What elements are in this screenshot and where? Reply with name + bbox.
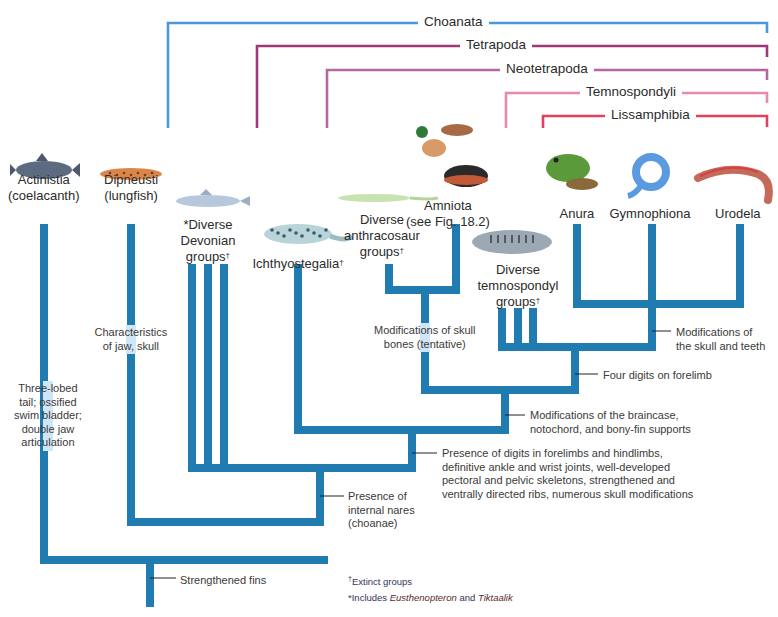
character-line: Modifications of the braincase, bbox=[530, 409, 691, 423]
taxon-label-line: Ichthyostegalia† bbox=[253, 256, 344, 272]
taxon-label-line: Dipneusti bbox=[104, 172, 158, 188]
taxon-label-line: Amniota bbox=[406, 198, 490, 214]
character-line: bones (tentative) bbox=[374, 338, 476, 352]
character-line: of jaw, skull bbox=[95, 340, 168, 354]
taxon-label-line: (lungfish) bbox=[104, 188, 158, 204]
taxon-label-line: *Diverse bbox=[181, 217, 236, 233]
character-line: Strengthened fins bbox=[180, 574, 266, 588]
extinct-dagger: † bbox=[400, 246, 404, 255]
character-line: Characteristics bbox=[95, 326, 168, 340]
taxon-label-amniota: Amniota(see Fig. 18.2) bbox=[406, 198, 490, 230]
taxon-label-line: Diverse bbox=[478, 262, 559, 278]
taxon-label-line: Anura bbox=[560, 206, 595, 222]
devonian-fish-icon bbox=[176, 189, 250, 207]
character-line: swim bladder; bbox=[14, 409, 82, 423]
character-line: tail; ossified bbox=[14, 396, 82, 410]
taxon-label-actinistia: Actinistia(coelacanth) bbox=[8, 172, 80, 204]
taxon-label-line: (see Fig. 18.2) bbox=[406, 214, 490, 230]
footnote-extinct-text: Extinct groups bbox=[352, 576, 412, 587]
extinct-dagger: † bbox=[536, 296, 540, 305]
taxon-label-temnospondyl: Diversetemnospondylgroups† bbox=[478, 262, 559, 310]
character-line: articulation bbox=[14, 436, 82, 450]
character-skull-teeth: Modifications ofthe skull and teeth bbox=[676, 326, 765, 353]
character-braincase: Modifications of the braincase,notochord… bbox=[530, 409, 691, 436]
character-three-lobed: Three-lobedtail; ossifiedswim bladder;do… bbox=[14, 382, 82, 450]
character-four-digits: Four digits on forelimb bbox=[603, 369, 712, 383]
character-line: the skull and teeth bbox=[676, 340, 765, 354]
clade-label-neotetrapoda: Neotetrapoda bbox=[500, 61, 594, 77]
taxon-label-anura: Anura bbox=[560, 206, 595, 222]
temnospondyl-icon bbox=[472, 230, 552, 254]
taxon-label-devonian: *DiverseDevoniangroups† bbox=[181, 217, 236, 265]
clade-label-temnospondyli: Temnospondyli bbox=[580, 84, 682, 100]
taxon-label-ichthyostegalia: Ichthyostegalia† bbox=[253, 256, 344, 272]
footnote-extinct: †Extinct groups bbox=[348, 575, 412, 587]
character-line: Modifications of skull bbox=[374, 324, 476, 338]
taxon-label-line: (coelacanth) bbox=[8, 188, 80, 204]
taxon-label-urodela: Urodela bbox=[715, 206, 761, 222]
character-line: definitive ankle and wrist joints, well-… bbox=[442, 461, 693, 475]
character-line: Three-lobed bbox=[14, 382, 82, 396]
clade-label-choanata: Choanata bbox=[418, 14, 489, 30]
character-line: (choanae) bbox=[348, 517, 415, 531]
salamander-icon bbox=[698, 168, 769, 200]
frog-icon bbox=[546, 154, 598, 190]
character-line: internal nares bbox=[348, 504, 415, 518]
caecilian-icon bbox=[628, 157, 666, 196]
character-line: ventrally directed ribs, numerous skull … bbox=[442, 488, 693, 502]
taxon-label-line: anthracosaur bbox=[344, 228, 420, 244]
taxon-label-line: Actinistia bbox=[8, 172, 80, 188]
character-line: pectoral and pelvic skeletons, strengthe… bbox=[442, 474, 693, 488]
character-line: notochord, and bony-fin supports bbox=[530, 423, 691, 437]
extinct-dagger: † bbox=[226, 251, 230, 260]
taxon-label-dipneusti: Dipneusti(lungfish) bbox=[104, 172, 158, 204]
ichthyostega-icon bbox=[264, 224, 352, 244]
character-digits: Presence of digits in forelimbs and hind… bbox=[442, 447, 693, 501]
clade-label-lissamphibia: Lissamphibia bbox=[605, 107, 696, 123]
character-jaw-skull: Characteristicsof jaw, skull bbox=[95, 326, 168, 353]
taxon-label-line: temnospondyl bbox=[478, 278, 559, 294]
cladogram-figure: ChoanataTetrapodaNeotetrapodaTemnospondy… bbox=[0, 0, 778, 617]
character-line: double jaw bbox=[14, 423, 82, 437]
genus-eusthenopteron: Eusthenopteron bbox=[390, 592, 457, 603]
taxon-label-line: Devonian bbox=[181, 233, 236, 249]
amniotes-icon bbox=[416, 124, 488, 187]
character-line: Presence of bbox=[348, 490, 415, 504]
taxon-label-line: Gymnophiona bbox=[610, 206, 691, 222]
character-line: Four digits on forelimb bbox=[603, 369, 712, 383]
footnote-includes-text: Includes bbox=[352, 592, 390, 603]
footnote-includes: *Includes Eusthenopteron and Tiktaalik bbox=[348, 592, 513, 603]
clade-label-tetrapoda: Tetrapoda bbox=[460, 37, 532, 53]
character-strengthened-fins: Strengthened fins bbox=[180, 574, 266, 588]
taxon-label-line: groups† bbox=[181, 249, 236, 265]
taxon-label-line: groups† bbox=[478, 294, 559, 310]
character-line: Presence of digits in forelimbs and hind… bbox=[442, 447, 693, 461]
taxon-label-line: Urodela bbox=[715, 206, 761, 222]
genus-tiktaalik: Tiktaalik bbox=[478, 592, 513, 603]
character-skull-bones: Modifications of skullbones (tentative) bbox=[374, 324, 476, 351]
taxon-label-line: groups† bbox=[344, 244, 420, 260]
taxon-label-gymnophiona: Gymnophiona bbox=[610, 206, 691, 222]
character-internal-nares: Presence ofinternal nares(choanae) bbox=[348, 490, 415, 531]
footnote-and: and bbox=[457, 592, 478, 603]
character-line: Modifications of bbox=[676, 326, 765, 340]
